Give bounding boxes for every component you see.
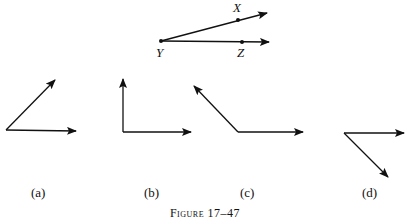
angle-b [123, 79, 191, 132]
point-y [159, 39, 163, 43]
caption-number: 17–47 [208, 206, 241, 220]
point-x-label: X [233, 1, 241, 14]
point-z [240, 40, 244, 44]
angle-d [344, 133, 404, 177]
panel-label-b: (b) [144, 186, 159, 199]
figure-caption: Figure 17–47 [0, 206, 410, 221]
panel-label-d: (d) [362, 186, 377, 199]
point-x [236, 18, 240, 22]
figure-canvas [0, 0, 410, 221]
panel-label-c: (c) [240, 186, 254, 199]
reference-angle-xyz [159, 13, 269, 44]
angle-c [194, 86, 303, 132]
ray-yx [161, 13, 267, 41]
angle-a [6, 80, 76, 131]
point-y-label: Y [156, 46, 163, 59]
panel-label-a: (a) [31, 186, 45, 199]
point-z-label: Z [237, 46, 244, 59]
caption-prefix: Figure [170, 206, 204, 220]
ray-yz [161, 41, 269, 42]
